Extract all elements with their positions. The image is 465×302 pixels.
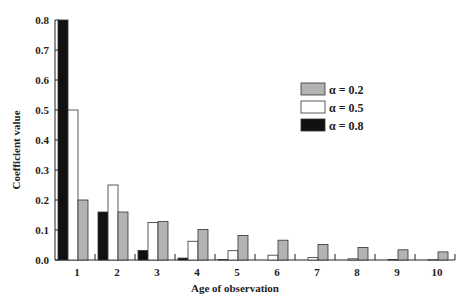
legend-swatch xyxy=(301,83,325,95)
bar xyxy=(398,250,408,260)
bar xyxy=(108,185,118,260)
x-tick-label: 2 xyxy=(114,266,120,278)
y-tick-label: 0.8 xyxy=(35,14,49,26)
y-tick-label: 0.2 xyxy=(35,194,49,206)
y-tick-label: 0.0 xyxy=(35,254,49,266)
legend-label: α = 0.2 xyxy=(329,83,364,97)
bar xyxy=(148,223,158,261)
bar xyxy=(238,235,248,260)
y-axis-label: Coefficient value xyxy=(10,110,22,189)
bar xyxy=(158,222,168,260)
bar xyxy=(308,258,318,260)
bar xyxy=(98,212,108,260)
y-tick-label: 0.3 xyxy=(35,164,49,176)
x-tick-label: 8 xyxy=(354,266,360,278)
y-tick-label: 0.6 xyxy=(35,74,49,86)
bar xyxy=(278,240,288,260)
legend-label: α = 0.8 xyxy=(329,119,364,133)
bar xyxy=(118,212,128,260)
legend-label: α = 0.5 xyxy=(329,101,364,115)
bar xyxy=(178,258,188,260)
x-tick-label: 3 xyxy=(154,266,160,278)
y-tick-label: 0.4 xyxy=(35,134,49,146)
bar xyxy=(198,229,208,260)
bar xyxy=(358,247,368,260)
x-tick-label: 4 xyxy=(194,266,200,278)
bar xyxy=(348,259,358,260)
x-tick-label: 10 xyxy=(432,266,444,278)
legend-swatch xyxy=(301,119,325,131)
bar xyxy=(68,110,78,260)
bar xyxy=(78,200,88,260)
x-tick-label: 7 xyxy=(314,266,320,278)
y-tick-label: 0.7 xyxy=(35,44,49,56)
x-tick-label: 6 xyxy=(274,266,280,278)
x-tick-label: 5 xyxy=(234,266,240,278)
x-axis-label: Age of observation xyxy=(191,282,279,294)
bar xyxy=(58,20,68,260)
bar xyxy=(438,252,448,260)
x-tick-label: 9 xyxy=(394,266,400,278)
y-tick-label: 0.1 xyxy=(35,224,49,236)
x-tick-label: 1 xyxy=(74,266,80,278)
bar xyxy=(318,244,328,260)
legend-swatch xyxy=(301,101,325,113)
bar xyxy=(268,255,278,260)
bar xyxy=(388,259,398,260)
bar-chart: 0.00.10.20.30.40.50.60.70.812345678910Ag… xyxy=(0,0,465,302)
bar xyxy=(228,251,238,260)
bar xyxy=(138,250,148,260)
bar xyxy=(188,241,198,260)
y-tick-label: 0.5 xyxy=(35,104,49,116)
